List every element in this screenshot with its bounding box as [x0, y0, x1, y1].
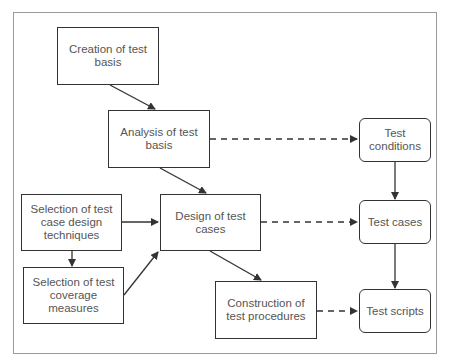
box-label: Test conditions: [366, 127, 424, 153]
box-label: Selection of test case design techniques: [30, 203, 113, 242]
box-selection-of-design-techniques: Selection of test case design techniques: [21, 194, 122, 251]
box-label: Test scripts: [366, 305, 424, 318]
arrow-analysis-design: [160, 168, 206, 193]
arrow-selcoverage-design: [124, 252, 158, 295]
box-test-conditions: Test conditions: [359, 118, 431, 162]
box-label: Test cases: [368, 216, 422, 229]
box-label: Analysis of test basis: [111, 126, 207, 152]
box-label: Selection of test coverage measures: [30, 276, 117, 315]
box-label: Design of test cases: [163, 210, 258, 236]
box-construction-of-test-procedures: Construction of test procedures: [215, 281, 317, 339]
box-analysis-of-test-basis: Analysis of test basis: [108, 110, 210, 168]
box-test-scripts: Test scripts: [359, 289, 431, 333]
box-test-cases: Test cases: [359, 200, 431, 244]
box-selection-of-coverage-measures: Selection of test coverage measures: [23, 267, 124, 324]
box-creation-of-test-basis: Creation of test basis: [57, 27, 159, 85]
arrow-creation-analysis: [110, 85, 155, 109]
box-label: Construction of test procedures: [218, 297, 314, 323]
box-label: Creation of test basis: [60, 43, 156, 69]
box-design-of-test-cases: Design of test cases: [160, 194, 261, 251]
arrow-design-construction: [210, 251, 261, 280]
